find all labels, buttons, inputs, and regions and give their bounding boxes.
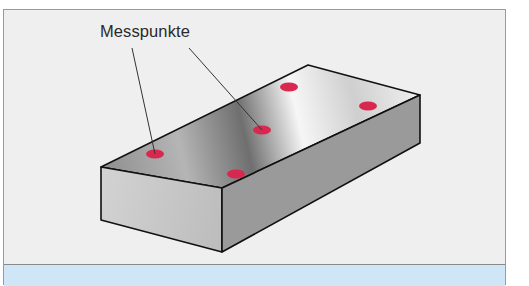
caption-bar <box>4 264 505 286</box>
measurement-point <box>359 102 377 111</box>
measurement-point <box>280 83 298 92</box>
measurement-point <box>227 170 245 179</box>
leader-line <box>132 48 155 154</box>
measurement-points-label: Messpunkte <box>100 22 190 41</box>
